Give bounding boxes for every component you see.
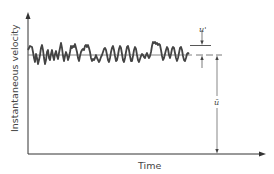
mean-label: ū — [214, 98, 219, 107]
velocity-signal — [28, 42, 189, 64]
y-axis-arrow-icon — [26, 12, 31, 19]
fluctuation-annotation: u' — [190, 25, 211, 68]
arrow-up-icon — [215, 56, 218, 61]
y-axis-label: Instantaneous velocity — [9, 24, 20, 132]
y-axis — [26, 12, 31, 154]
x-axis-arrow-icon — [259, 152, 266, 157]
mean-annotation: ū — [212, 56, 222, 154]
arrow-down-icon — [200, 41, 203, 46]
turbulent-velocity-diagram: u' ū Time Instantaneous velocity — [0, 0, 274, 174]
x-axis — [28, 152, 266, 157]
x-axis-label: Time — [137, 160, 161, 171]
fluctuation-label: u' — [199, 25, 206, 34]
arrow-up-icon — [200, 56, 203, 61]
arrow-down-icon — [215, 149, 218, 154]
